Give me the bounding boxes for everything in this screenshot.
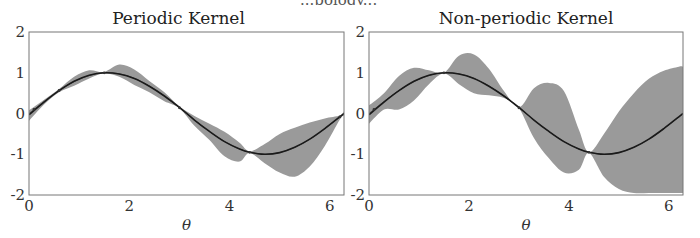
x-tick-label: 2: [464, 197, 474, 215]
observation-point: [248, 151, 251, 154]
periodic-kernel-plot: Periodic Kernel210-1-20246θ: [0, 0, 350, 238]
x-tick-label: 0: [24, 197, 34, 215]
confidence-band: [369, 53, 683, 193]
x-tick-label: 0: [364, 197, 374, 215]
y-tick-label: -2: [10, 186, 25, 204]
observation-point: [103, 71, 106, 74]
y-tick-label: -2: [350, 186, 365, 204]
x-axis-label: θ: [521, 216, 530, 234]
y-tick-label: 2: [355, 23, 365, 41]
y-tick-label: 1: [15, 64, 25, 82]
non-periodic-kernel-plot: Non-periodic Kernel210-1-20246θ: [340, 0, 700, 238]
chart-title: Non-periodic Kernel: [439, 8, 614, 28]
y-tick-label: 0: [15, 105, 25, 123]
y-tick-label: -1: [350, 145, 365, 163]
observation-point: [587, 151, 590, 154]
observation-point: [373, 108, 376, 111]
x-tick-label: 4: [225, 197, 235, 215]
confidence-band: [29, 65, 344, 177]
observation-point: [33, 108, 36, 111]
observation-point: [178, 106, 181, 109]
y-tick-label: 0: [355, 105, 365, 123]
x-axis-label: θ: [182, 216, 191, 234]
chart-title: Periodic Kernel: [112, 8, 245, 28]
x-tick-label: 6: [664, 197, 674, 215]
x-tick-label: 2: [124, 197, 134, 215]
y-tick-label: 1: [355, 64, 365, 82]
observation-point: [58, 89, 61, 92]
x-tick-label: 4: [564, 197, 574, 215]
x-tick-label: 6: [325, 197, 335, 215]
observation-point: [443, 71, 446, 74]
observation-point: [518, 106, 521, 109]
y-tick-label: -1: [10, 145, 25, 163]
y-tick-label: 2: [15, 23, 25, 41]
